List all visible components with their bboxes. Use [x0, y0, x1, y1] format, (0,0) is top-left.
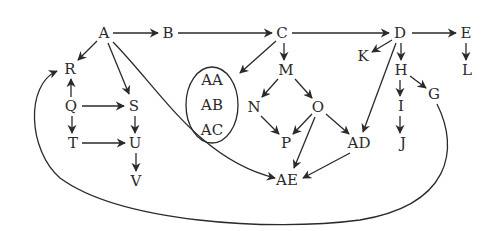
- edge-O-AE: [294, 117, 315, 168]
- node-AC: AC: [200, 121, 223, 139]
- node-AB: AB: [200, 96, 223, 114]
- node-U: U: [129, 134, 142, 152]
- node-A: A: [98, 24, 110, 42]
- node-T: T: [68, 134, 78, 152]
- node-S: S: [129, 97, 139, 115]
- edge-O-AD: [326, 114, 349, 134]
- node-G: G: [428, 85, 440, 103]
- edge-AD-AE: [303, 153, 350, 178]
- edge-M-O: [295, 79, 312, 98]
- node-Q: Q: [65, 97, 77, 115]
- node-H: H: [394, 61, 407, 79]
- edge-H-G: [410, 76, 426, 88]
- node-L: L: [462, 61, 472, 79]
- edge-D-K: [372, 40, 392, 52]
- node-R: R: [64, 60, 76, 78]
- node-N: N: [247, 98, 260, 116]
- edge-A-S: [108, 43, 129, 94]
- node-J: J: [398, 134, 406, 152]
- node-AD: AD: [347, 134, 371, 152]
- edge-M-N: [262, 79, 278, 97]
- node-M: M: [278, 61, 293, 79]
- node-O: O: [312, 98, 324, 116]
- edge-C-group: [240, 41, 276, 73]
- edge-N-P: [261, 116, 279, 134]
- node-AE: AE: [275, 171, 298, 189]
- node-K: K: [357, 47, 369, 65]
- node-B: B: [162, 24, 173, 42]
- dependency-graph: A B C D E R Q S T U V M N O P AD AE K H …: [0, 0, 501, 231]
- node-AA: AA: [200, 71, 223, 89]
- node-P: P: [281, 134, 291, 152]
- node-C: C: [276, 24, 287, 42]
- node-V: V: [130, 172, 143, 190]
- node-I: I: [398, 97, 404, 115]
- edge-A-R: [78, 41, 97, 60]
- edge-G-R: [34, 71, 447, 225]
- nodes: A B C D E R Q S T U V M N O P AD AE K H …: [64, 24, 472, 190]
- node-D: D: [394, 24, 406, 42]
- node-E: E: [461, 24, 472, 42]
